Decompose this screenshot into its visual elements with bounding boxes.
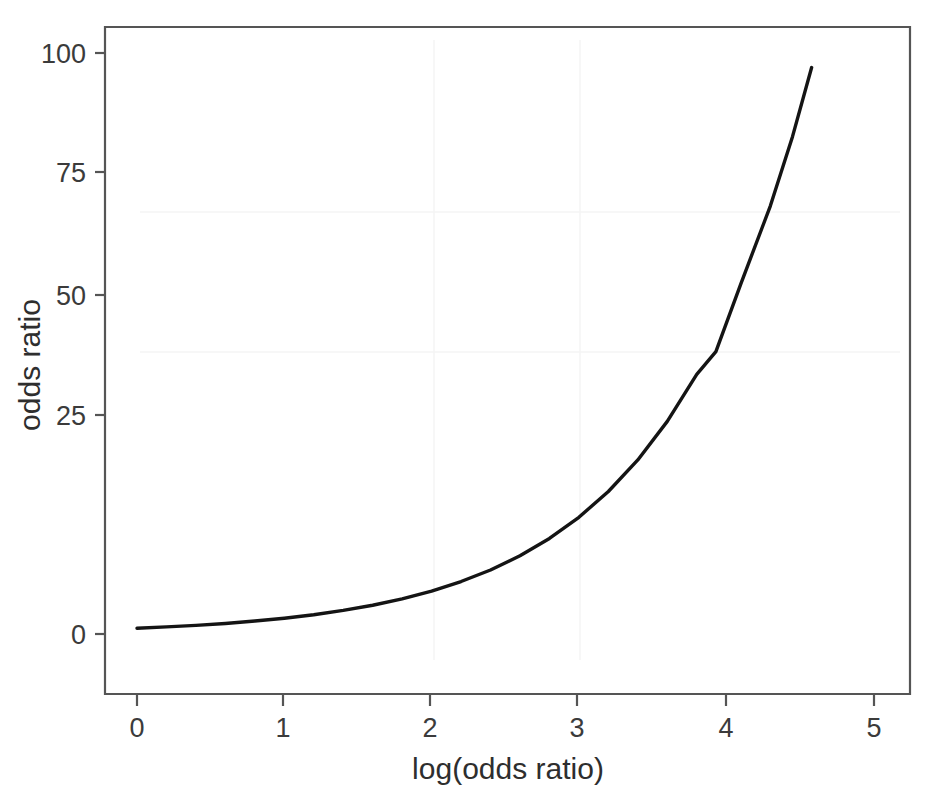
y-tick-label-50: 50 (56, 281, 86, 311)
x-tick-label-4: 4 (718, 713, 733, 743)
plot-frame (105, 27, 910, 694)
x-tick-label-3: 3 (569, 713, 584, 743)
data-series-group (137, 68, 812, 629)
chart-plot: 100 75 50 25 0 0 1 2 3 4 5 l (0, 0, 932, 788)
data-series-line (137, 68, 812, 629)
y-axis-tick-labels: 100 75 50 25 0 (41, 39, 86, 650)
y-tick-label-100: 100 (41, 39, 86, 69)
x-axis-ticks (137, 694, 874, 706)
x-tick-label-2: 2 (422, 713, 437, 743)
y-tick-label-25: 25 (56, 401, 86, 431)
scan-artifacts (140, 40, 900, 660)
x-tick-label-1: 1 (275, 713, 290, 743)
y-tick-label-0: 0 (71, 620, 86, 650)
y-tick-label-75: 75 (56, 158, 86, 188)
x-axis-title: log(odds ratio) (412, 752, 604, 785)
x-tick-label-0: 0 (129, 713, 144, 743)
y-axis-title: odds ratio (13, 299, 46, 431)
x-tick-label-5: 5 (866, 713, 881, 743)
figure-canvas: 100 75 50 25 0 0 1 2 3 4 5 l (0, 0, 932, 788)
y-axis-ticks (95, 53, 105, 634)
x-axis-tick-labels: 0 1 2 3 4 5 (129, 713, 881, 743)
